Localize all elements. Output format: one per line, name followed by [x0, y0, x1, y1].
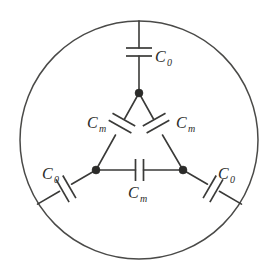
- node-dot-left: [92, 166, 100, 174]
- wire-cm-right-upper: [139, 93, 154, 119]
- node-dot-right: [179, 166, 187, 174]
- label-cm-bottom: C: [128, 184, 139, 201]
- wire-cm-right-lower: [163, 135, 184, 170]
- label-c0-right: C: [218, 165, 229, 182]
- label-c0-left: C: [42, 165, 53, 182]
- label-cm-left-subscript: m: [99, 123, 106, 134]
- label-cm-right-subscript: m: [188, 123, 195, 134]
- wire-c0-right-outer: [219, 191, 241, 204]
- label-cm-bottom-subscript: m: [140, 193, 147, 204]
- circuit-figure: C 0 C m C m C m C 0 C 0: [0, 0, 279, 277]
- node-dot-apex: [135, 89, 143, 97]
- label-cm-right: C: [176, 114, 187, 131]
- label-c0-left-subscript: 0: [54, 174, 59, 185]
- label-cm-left: C: [87, 114, 98, 131]
- wire-c0-left-outer: [38, 191, 60, 204]
- label-c0-right-subscript: 0: [230, 174, 235, 185]
- wire-cm-left-lower: [96, 135, 116, 170]
- label-c0-top: C: [155, 48, 166, 65]
- label-c0-top-subscript: 0: [167, 57, 172, 68]
- wire-cm-left-upper: [125, 93, 140, 119]
- circuit-diagram-canvas: C 0 C m C m C m C 0 C 0: [0, 0, 279, 277]
